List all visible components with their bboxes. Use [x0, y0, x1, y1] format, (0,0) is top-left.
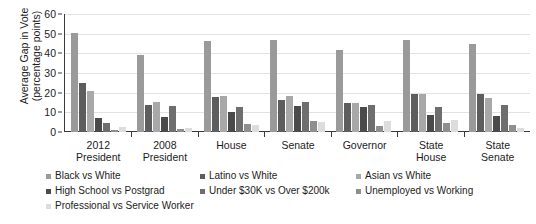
x-axis-label-line: Senate	[464, 152, 531, 164]
bar-groups	[65, 14, 530, 132]
legend-label: Unemployed vs Working	[365, 185, 473, 197]
legend-label: Latino vs White	[209, 170, 277, 182]
y-tick-label: 50	[34, 28, 56, 39]
x-axis-label-line: House	[198, 140, 265, 152]
legend-swatch-icon	[200, 189, 205, 194]
bar	[310, 121, 317, 132]
x-axis-label: StateHouse	[398, 140, 465, 163]
legend-item[interactable]: Under $30K vs Over $200k	[200, 185, 356, 197]
bar-group	[264, 14, 330, 132]
legend-label: Black vs White	[55, 170, 121, 182]
bar	[286, 96, 293, 132]
legend-swatch-icon	[356, 189, 361, 194]
bar	[294, 106, 301, 132]
bar	[169, 106, 176, 132]
x-axis-label-line: Senate	[265, 140, 332, 152]
bar-group	[464, 14, 530, 132]
bar	[352, 103, 359, 132]
bar	[501, 105, 508, 132]
legend-item[interactable]: Professional vs Service Worker	[46, 200, 200, 212]
x-axis-label: 2012President	[65, 140, 132, 163]
bar	[427, 115, 434, 132]
bar	[145, 105, 152, 132]
y-tick-label: 40	[34, 48, 56, 59]
legend-item[interactable]: Asian vs White	[356, 170, 506, 182]
x-axis-label-line: Governor	[331, 140, 398, 152]
bar	[411, 94, 418, 132]
x-axis-label-line: House	[398, 152, 465, 164]
y-tick-label: 60	[34, 9, 56, 20]
legend-item[interactable]: High School vs Postgrad	[46, 185, 200, 197]
y-tick-mark	[58, 112, 62, 113]
bar	[435, 107, 442, 132]
plot-area: 0102030405060	[36, 14, 530, 138]
bar	[517, 128, 524, 132]
bar-chart: Average Gap in Vote (percentage points) …	[0, 0, 536, 224]
bar-group	[331, 14, 397, 132]
bar	[360, 107, 367, 132]
bar	[185, 128, 192, 132]
bar	[177, 129, 184, 132]
bar-group	[397, 14, 463, 132]
x-axis-label: Senate	[265, 140, 332, 163]
bar	[443, 123, 450, 132]
x-axis-label-line: 2012	[65, 140, 132, 152]
x-axis-label-line: President	[65, 152, 132, 164]
bar	[302, 102, 309, 132]
bar	[270, 40, 277, 132]
bar	[403, 40, 410, 132]
y-tick-mark	[58, 132, 62, 133]
bar	[244, 124, 251, 132]
legend-item[interactable]: Unemployed vs Working	[356, 185, 506, 197]
axis-area	[64, 14, 530, 132]
legend-label: Under $30K vs Over $200k	[209, 185, 330, 197]
bar	[419, 94, 426, 132]
legend-item[interactable]: Latino vs White	[200, 170, 356, 182]
x-axis-labels: 2012President2008PresidentHouseSenateGov…	[65, 140, 531, 163]
bar	[228, 112, 235, 132]
x-axis-label-line: 2008	[132, 140, 199, 152]
bar-group	[65, 14, 131, 132]
chart-legend: Black vs WhiteLatino vs WhiteAsian vs Wh…	[46, 170, 524, 212]
y-tick-mark	[58, 33, 62, 34]
bar	[161, 117, 168, 132]
bar	[318, 122, 325, 132]
x-axis-label-line: State	[398, 140, 465, 152]
y-tick-label: 30	[34, 68, 56, 79]
bar	[119, 127, 126, 132]
bar	[95, 118, 102, 132]
legend-label: Professional vs Service Worker	[55, 200, 194, 212]
bar	[368, 105, 375, 132]
bar	[485, 98, 492, 132]
bar	[376, 126, 383, 132]
x-axis-label-line: President	[132, 152, 199, 164]
y-axis-title-line-1: Average Gap in Vote	[18, 8, 30, 105]
bar	[204, 41, 211, 132]
y-tick-mark	[58, 92, 62, 93]
legend-swatch-icon	[200, 174, 205, 179]
y-tick-label: 10	[34, 107, 56, 118]
x-axis-label-line: State	[464, 140, 531, 152]
bar	[252, 125, 259, 132]
bar	[103, 123, 110, 132]
y-tick-label: 20	[34, 87, 56, 98]
bar	[153, 102, 160, 132]
bar	[384, 121, 391, 132]
bar-group	[198, 14, 264, 132]
bar	[212, 97, 219, 132]
x-axis-label: House	[198, 140, 265, 163]
bar	[278, 100, 285, 132]
bar	[469, 44, 476, 133]
legend-item[interactable]: Black vs White	[46, 170, 200, 182]
legend-swatch-icon	[46, 189, 51, 194]
x-axis-label: 2008President	[132, 140, 199, 163]
bar	[220, 96, 227, 132]
legend-swatch-icon	[46, 174, 51, 179]
x-axis-label: StateSenate	[464, 140, 531, 163]
y-tick-mark	[58, 53, 62, 54]
bar	[71, 33, 78, 132]
bar	[344, 103, 351, 133]
y-tick-mark	[58, 14, 62, 15]
bar-group	[131, 14, 197, 132]
bar	[477, 94, 484, 132]
